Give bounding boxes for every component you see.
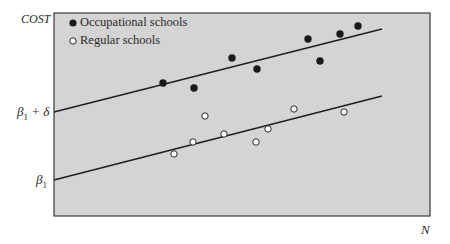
- delta-term: + δ: [28, 104, 49, 119]
- regular-data-point: [190, 139, 196, 145]
- occupational-data-point: [190, 84, 197, 91]
- occupational-data-point: [354, 22, 361, 29]
- occupational-data-point: [159, 79, 166, 86]
- occupational-data-point: [304, 35, 311, 42]
- occupational-data-point: [336, 30, 343, 37]
- regular-data-point: [221, 131, 227, 137]
- legend-label-occupational: Occupational schools: [80, 15, 187, 30]
- legend-filled-marker-icon: [69, 19, 76, 26]
- regular-data-point: [291, 106, 297, 112]
- upper-intercept-label: β1 + δ: [17, 104, 49, 122]
- scatter-chart: [0, 0, 450, 244]
- legend-open-marker-icon: [70, 38, 76, 44]
- beta-subscript: 1: [42, 180, 47, 190]
- regular-data-point: [341, 109, 347, 115]
- legend-label-regular: Regular schools: [80, 33, 160, 48]
- occupational-data-point: [316, 57, 323, 64]
- lower-intercept-label: β1: [36, 172, 47, 190]
- occupational-data-point: [253, 65, 260, 72]
- y-axis-label: COST: [21, 12, 50, 27]
- regular-data-point: [265, 126, 271, 132]
- x-axis-label: N: [421, 222, 430, 238]
- regular-data-point: [202, 113, 208, 119]
- occupational-data-point: [228, 54, 235, 61]
- regular-data-point: [253, 139, 259, 145]
- regular-data-point: [171, 151, 177, 157]
